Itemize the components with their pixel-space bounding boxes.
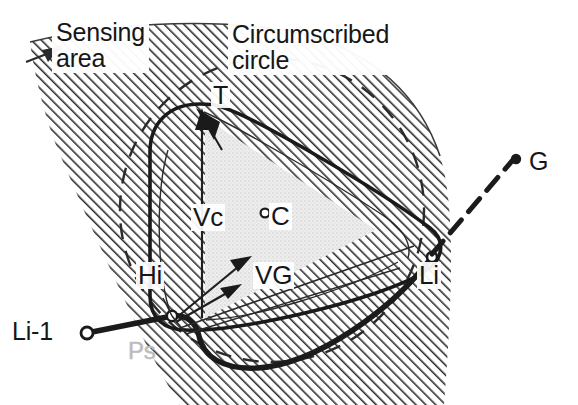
label-circumscribed-line2: circle xyxy=(232,47,389,73)
label-sensing-area-line1: Sensing xyxy=(56,19,145,45)
node-li-minus-1 xyxy=(81,327,93,339)
label-goal-g: G xyxy=(527,148,550,174)
label-point-li-minus-1: Li-1 xyxy=(10,318,55,344)
label-vertex-t: T xyxy=(211,82,230,108)
label-circumscribed-circle: Circumscribed circle xyxy=(228,20,393,75)
diagram-canvas: Sensing area Circumscribed circle T Vc C… xyxy=(0,0,578,405)
label-sensing-area-line2: area xyxy=(56,45,145,71)
label-center-c: C xyxy=(269,203,292,230)
label-sensing-area: Sensing area xyxy=(52,18,149,73)
label-point-hi: Hi xyxy=(136,262,164,289)
label-point-li: Li xyxy=(417,262,441,289)
label-circumscribed-line1: Circumscribed xyxy=(232,21,389,47)
goal-dot-icon xyxy=(511,154,521,164)
label-vector-vg: VG xyxy=(253,262,294,289)
label-vector-vc: Vc xyxy=(191,204,225,231)
label-path-ps: Ps xyxy=(128,338,156,363)
